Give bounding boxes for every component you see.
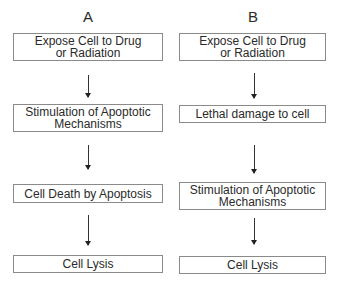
- step-b1-expose-cell: Expose Cell to Drug or Radiation: [179, 33, 326, 61]
- step-a4-cell-lysis: Cell Lysis: [13, 255, 163, 273]
- step-b4-cell-lysis: Cell Lysis: [179, 256, 326, 274]
- step-text: Cell Lysis: [227, 259, 278, 271]
- step-text: Cell Death by Apoptosis: [24, 188, 151, 200]
- step-text: Stimulation of Apoptotic Mechanisms: [14, 106, 162, 130]
- step-a3-cell-death-apoptosis: Cell Death by Apoptosis: [13, 184, 163, 203]
- arrow-down-icon: [88, 145, 89, 169]
- arrow-down-icon: [254, 145, 255, 173]
- step-b2-lethal-damage: Lethal damage to cell: [179, 105, 326, 123]
- step-text: Expose Cell to Drug or Radiation: [180, 35, 325, 59]
- step-b3-stimulation-apoptotic: Stimulation of Apoptotic Mechanisms: [179, 182, 326, 210]
- arrow-down-icon: [254, 218, 255, 244]
- step-text: Lethal damage to cell: [195, 108, 309, 120]
- step-text: Stimulation of Apoptotic Mechanisms: [180, 184, 325, 208]
- column-b-label: B: [233, 8, 273, 25]
- arrow-down-icon: [254, 73, 255, 98]
- column-a-label: A: [68, 8, 108, 25]
- step-text: Cell Lysis: [63, 258, 114, 270]
- step-text: Expose Cell to Drug or Radiation: [14, 35, 162, 59]
- arrow-down-icon: [88, 215, 89, 245]
- step-a2-stimulation-apoptotic: Stimulation of Apoptotic Mechanisms: [13, 104, 163, 132]
- arrow-down-icon: [88, 75, 89, 97]
- step-a1-expose-cell: Expose Cell to Drug or Radiation: [13, 33, 163, 61]
